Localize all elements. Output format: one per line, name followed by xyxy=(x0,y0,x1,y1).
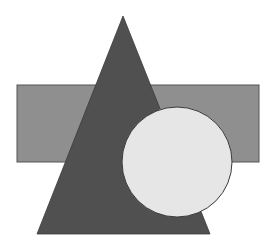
shapes-diagram xyxy=(0,0,279,250)
light-circle xyxy=(122,107,232,217)
